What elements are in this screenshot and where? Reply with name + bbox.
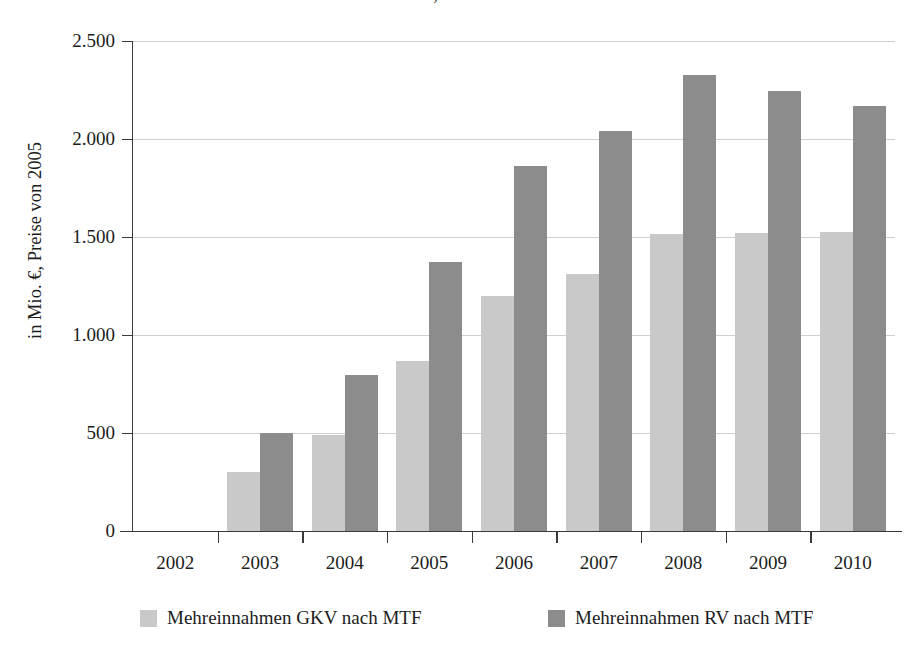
y-axis-tick <box>122 335 133 336</box>
bar <box>735 233 768 531</box>
legend-label: Mehreinnahmen GKV nach MTF <box>167 607 422 629</box>
bar <box>768 91 801 531</box>
y-axis-tick-label: 1.500 <box>25 226 115 248</box>
legend-label: Mehreinnahmen RV nach MTF <box>575 607 813 629</box>
y-axis-tick-label: 500 <box>25 422 115 444</box>
legend-entry: Mehreinnahmen GKV nach MTF <box>140 607 422 629</box>
y-axis-tick <box>122 41 133 42</box>
x-axis-tick <box>726 532 727 543</box>
chart-title: und RV, 2002 – 2010 <box>0 0 917 5</box>
x-axis-tick-label: 2009 <box>749 552 787 574</box>
x-axis-tick <box>472 532 473 543</box>
bar <box>853 106 886 531</box>
x-axis-tick-label: 2005 <box>410 552 448 574</box>
legend-swatch <box>140 610 157 627</box>
legend-swatch <box>548 610 565 627</box>
bar <box>396 361 429 531</box>
bar <box>650 234 683 531</box>
chart-figure: und RV, 2002 – 2010 in Mio. €, Preise vo… <box>0 0 917 659</box>
x-axis-tick-label: 2004 <box>326 552 364 574</box>
gridline <box>133 41 895 42</box>
x-axis-tick-label: 2002 <box>156 552 194 574</box>
y-axis-tick <box>122 531 133 532</box>
chart-legend: Mehreinnahmen GKV nach MTFMehreinnahmen … <box>0 607 917 647</box>
bar <box>683 75 716 531</box>
y-axis-tick-label: 2.500 <box>25 30 115 52</box>
x-axis-tick <box>556 532 557 543</box>
x-axis-tick <box>218 532 219 543</box>
y-axis-tick <box>122 237 133 238</box>
legend-entry: Mehreinnahmen RV nach MTF <box>548 607 813 629</box>
bar <box>345 375 378 531</box>
x-axis-tick <box>641 532 642 543</box>
y-axis-tick-label: 1.000 <box>25 324 115 346</box>
y-axis-tick-label: 0 <box>25 520 115 542</box>
y-axis-tick-label: 2.000 <box>25 128 115 150</box>
x-axis-tick-label: 2010 <box>834 552 872 574</box>
plot-area <box>133 41 895 531</box>
bar <box>514 166 547 531</box>
x-axis-tick <box>387 532 388 543</box>
x-axis-tick-label: 2006 <box>495 552 533 574</box>
x-axis-line <box>120 531 902 532</box>
y-axis-line <box>132 41 133 532</box>
x-axis-tick <box>302 532 303 543</box>
bar <box>481 296 514 531</box>
bar <box>599 131 632 531</box>
bar <box>260 433 293 531</box>
bar <box>820 232 853 531</box>
x-axis-tick <box>810 532 811 543</box>
bar <box>312 435 345 531</box>
x-axis-tick-label: 2007 <box>580 552 618 574</box>
x-axis-tick-label: 2003 <box>241 552 279 574</box>
bar <box>566 274 599 531</box>
bar <box>227 472 260 531</box>
bar <box>429 262 462 531</box>
x-axis-tick-label: 2008 <box>664 552 702 574</box>
y-axis-tick <box>122 433 133 434</box>
y-axis-tick <box>122 139 133 140</box>
